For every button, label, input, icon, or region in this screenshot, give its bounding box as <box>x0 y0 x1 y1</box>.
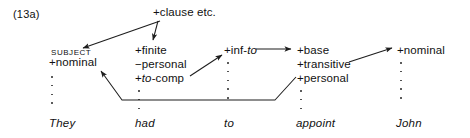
word-appoint: appoint <box>296 117 335 130</box>
dot-column-1 <box>51 76 53 111</box>
feature-nominal-col1: +nominal <box>49 56 97 69</box>
word-to: to <box>224 117 234 130</box>
root-node-label: +clause etc. <box>153 6 216 19</box>
edge-transitive-to-nominal <box>349 48 392 62</box>
linguistic-tree-diagram: (13a) +clause etc. SUBJECT +nominal They… <box>0 0 470 138</box>
word-had: had <box>135 117 155 130</box>
feature-inf-to-col3: +inf-to <box>224 44 257 57</box>
feature-inf-to-italic: to <box>247 44 257 56</box>
edge-clause-to-finite <box>153 21 158 40</box>
feature-finite-col2: +finite <box>135 44 167 57</box>
feature-to-comp-col2: +to-comp <box>135 72 184 85</box>
word-they: They <box>49 117 75 130</box>
feature-transitive-col4: +transitive <box>297 58 351 71</box>
dot-column-2 <box>138 90 140 116</box>
feature-to-comp-italic: to <box>142 72 152 84</box>
feature-personal-neg-col2: −personal <box>135 58 187 71</box>
feature-inf-to-prefix: +inf- <box>224 44 247 56</box>
edge-to-comp-to-inf-to <box>190 55 222 76</box>
dot-column-3 <box>227 62 229 106</box>
word-john: John <box>396 117 422 130</box>
edge-personal-to-subject-nominal <box>101 71 296 100</box>
dot-column-5 <box>400 62 402 106</box>
example-number-label: (13a) <box>13 8 40 21</box>
feature-to-comp-prefix: + <box>135 72 142 84</box>
feature-to-comp-suffix: -comp <box>152 72 184 84</box>
feature-base-col4: +base <box>297 44 329 57</box>
feature-nominal-col5: +nominal <box>397 44 445 57</box>
feature-personal-col4: +personal <box>297 72 349 85</box>
dot-column-4 <box>300 90 302 116</box>
